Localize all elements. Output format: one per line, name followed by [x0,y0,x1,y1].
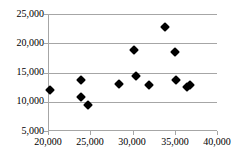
y-tick-15000 [44,73,48,74]
data-point [161,23,171,33]
scatter-chart: 25,000 20,000 15,000 10,000 5,000 20,000… [0,0,240,160]
data-point [144,80,154,90]
x-tick-40000 [217,131,218,135]
x-tick-30000 [133,131,134,135]
x-tick-35000 [175,131,176,135]
data-point [114,79,124,89]
plot-area [48,14,217,131]
x-axis-label-30000: 30,000 [110,137,154,147]
y-axis-label-20000: 20,000 [0,38,44,48]
x-axis-label-40000: 40,000 [195,137,239,147]
y-axis-label-5000: 5,000 [0,126,44,136]
data-point [171,75,181,85]
y-axis-label-10000: 10,000 [0,96,44,106]
data-point [129,45,139,55]
y-tick-20000 [44,43,48,44]
x-tick-25000 [90,131,91,135]
y-tick-10000 [44,102,48,103]
data-point [45,85,55,95]
data-point [170,47,180,57]
gridline-20000 [48,43,217,44]
x-axis-label-35000: 35,000 [153,137,197,147]
data-point [76,75,86,85]
y-axis-label-25000: 25,000 [0,9,44,19]
gridline-10000 [48,102,217,103]
x-axis-label-25000: 25,000 [68,137,112,147]
gridline-25000 [48,14,217,15]
x-axis-label-20000: 20,000 [26,137,70,147]
data-point [76,92,86,102]
y-tick-25000 [44,14,48,15]
x-tick-20000 [48,131,49,135]
y-axis-label-15000: 15,000 [0,67,44,77]
